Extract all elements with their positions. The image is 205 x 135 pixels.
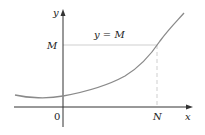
- diagram-canvas: y M y = M 0 N x: [0, 0, 205, 135]
- diagram-figure: y M y = M 0 N x: [0, 0, 205, 135]
- origin-label: 0: [54, 111, 60, 122]
- function-curve: [15, 13, 184, 98]
- x-axis-label: x: [185, 111, 191, 122]
- line-label: y = M: [93, 29, 125, 40]
- y-axis-label: y: [52, 7, 59, 18]
- y-axis-arrow-icon: [61, 9, 66, 16]
- n-label: N: [152, 111, 163, 122]
- m-label: M: [46, 40, 58, 51]
- x-axis-arrow-icon: [186, 105, 193, 110]
